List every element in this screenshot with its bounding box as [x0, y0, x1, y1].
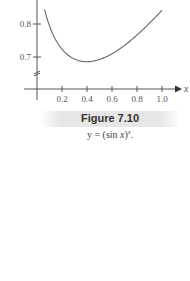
chart-plot: x 0.20.40.60.81.0 0.70.8 [0, 0, 190, 105]
y-ticks: 0.70.8 [20, 19, 41, 62]
x-tick-label: 0.2 [56, 94, 67, 104]
axes [24, 0, 175, 100]
x-axis-arrow-icon [175, 86, 182, 93]
x-tick-label: 0.8 [131, 94, 143, 104]
caption-suffix: . [131, 129, 134, 140]
data-curve [45, 9, 163, 61]
x-axis-label: x [183, 83, 189, 94]
x-tick-label: 1.0 [156, 94, 168, 104]
y-tick-label: 0.8 [20, 19, 32, 29]
figure-title: Figure 7.10 [40, 112, 180, 124]
x-tick-label: 0.6 [106, 94, 118, 104]
figure-caption: y = (sin x)x. [40, 129, 180, 140]
x-tick-label: 0.4 [81, 94, 93, 104]
caption-prefix: y = (sin [87, 129, 120, 140]
y-tick-label: 0.7 [20, 52, 32, 62]
